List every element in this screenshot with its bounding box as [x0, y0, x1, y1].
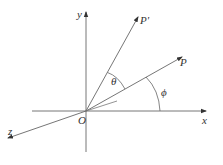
y-axis-label: y	[76, 8, 82, 20]
vector-p-prime	[86, 17, 138, 111]
p-label: P	[179, 56, 187, 68]
phi-arc	[146, 77, 160, 111]
theta-label: θ	[111, 75, 117, 87]
coordinate-diagram: y x z O P P' θ ϕ	[0, 0, 223, 165]
vector-p	[86, 57, 182, 111]
z-axis-label: z	[7, 125, 13, 137]
phi-label: ϕ	[161, 86, 167, 98]
p-prime-label: P'	[139, 14, 150, 26]
z-axis	[8, 111, 86, 138]
origin-label: O	[78, 114, 86, 126]
x-axis-label: x	[201, 114, 207, 126]
